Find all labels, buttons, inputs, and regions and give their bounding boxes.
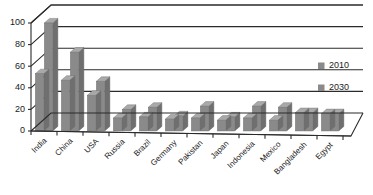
bar [87,91,101,131]
x-category-label: Indonesia [226,139,257,170]
bar-side-face [53,18,58,131]
x-category-label: Russia [103,137,127,161]
x-category-label: Egypt [314,140,335,161]
bar-front-face [269,120,277,131]
bar [139,112,153,131]
bar-side-face [44,69,49,131]
legend-label: 2010 [329,60,349,70]
x-category-label: Germany [149,138,179,168]
bar-side-face [261,102,266,131]
bar-front-face [321,114,329,131]
y-tick-label: 0 [20,125,25,135]
bar-front-face [165,119,173,131]
bar [113,113,127,131]
bar-front-face [243,118,251,131]
y-tick-label: 80 [15,39,25,49]
x-category-label: Japan [209,139,231,161]
legend-swatch [318,63,325,70]
bar-chart-figure: 020406080100 IndiaChinaUSARussiaBrazilGe… [0,0,373,195]
bar-side-face [209,102,214,131]
bar-front-face [35,74,43,131]
x-category-label: Mexico [258,139,283,164]
bar-side-face [79,48,84,131]
bar-front-face [217,120,225,131]
x-category-label: China [53,136,75,158]
bar-side-face [96,91,101,131]
bar [243,113,257,131]
y-tick-label: 40 [15,82,25,92]
chart-legend: 20102030 [318,60,349,92]
bar-side-face [157,103,162,131]
chart-3d-frame [31,5,363,23]
x-category-label: Pakistan [176,138,204,166]
bar-side-face [70,76,75,131]
bar-side-face [287,103,292,131]
bar [321,109,335,131]
bar-front-face [191,118,199,131]
y-tick-label: 100 [10,17,25,27]
bar-front-face [139,117,147,131]
y-tick-label: 20 [15,104,25,114]
bar-side-face [105,77,110,131]
x-category-label: Brazil [132,138,153,159]
bar [295,108,309,131]
chart-bars [35,18,344,131]
x-category-label: USA [83,136,101,154]
legend-label: 2030 [329,82,349,92]
bar-front-face [295,113,303,131]
y-axis-tick-labels: 020406080100 [10,17,25,135]
y-tick-label: 60 [15,61,25,71]
x-axis-category-labels: IndiaChinaUSARussiaBrazilGermanyPakistan… [30,136,335,177]
bar-front-face [113,118,121,131]
bar [61,76,75,131]
x-category-label: India [30,136,49,155]
legend-entry: 2010 [318,60,349,70]
legend-entry: 2030 [318,82,349,92]
bar-front-face [61,80,69,131]
bar [191,113,205,131]
chart-canvas: 020406080100 IndiaChinaUSARussiaBrazilGe… [0,0,373,195]
legend-swatch [318,85,325,92]
